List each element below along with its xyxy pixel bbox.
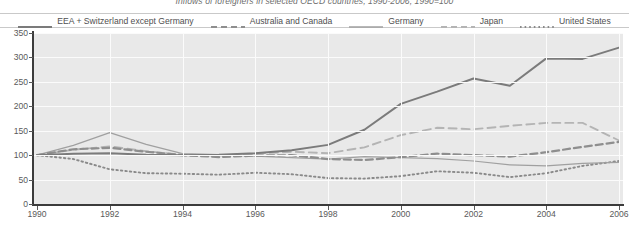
x-tick-label: 1990 <box>27 209 46 219</box>
y-tick-label: 250 <box>0 77 28 87</box>
y-tick-label: 100 <box>0 150 28 160</box>
x-tick-label: 1992 <box>100 209 119 219</box>
legend-label: Australia and Canada <box>250 16 333 26</box>
x-gridline <box>183 33 184 204</box>
legend-swatch-icon <box>520 17 554 25</box>
x-gridline <box>546 33 547 204</box>
legend-label: Germany <box>388 16 423 26</box>
plot-canvas <box>33 33 623 204</box>
y-tick-mark <box>29 155 33 156</box>
x-tick-label: 1996 <box>246 209 265 219</box>
x-gridline <box>619 33 620 204</box>
chart-title: Inflows of foreigners in selected OECD c… <box>0 0 629 6</box>
y-tick-mark <box>29 82 33 83</box>
legend-item-germany[interactable]: Germany <box>349 16 423 26</box>
legend-item-united-states[interactable]: United States <box>520 16 611 26</box>
x-tick-label: 1998 <box>318 209 337 219</box>
x-gridline <box>474 33 475 204</box>
x-tick-mark <box>37 206 38 210</box>
legend-swatch-icon <box>18 17 52 25</box>
x-tick-label: 2004 <box>537 209 556 219</box>
legend-item-australia-and-canada[interactable]: Australia and Canada <box>211 16 333 26</box>
x-tick-mark <box>328 206 329 210</box>
x-tick-mark <box>546 206 547 210</box>
y-tick-mark <box>29 106 33 107</box>
x-tick-mark <box>474 206 475 210</box>
chart-legend: EEA + Switzerland except GermanyAustrali… <box>0 13 629 28</box>
y-tick-label: 50 <box>0 175 28 185</box>
y-tick-mark <box>29 131 33 132</box>
x-gridline <box>328 33 329 204</box>
x-tick-mark <box>619 206 620 210</box>
x-gridline <box>401 33 402 204</box>
x-tick-mark <box>183 206 184 210</box>
plot-area: 050100150200250300350 199019921994199619… <box>0 28 629 242</box>
x-tick-label: 1994 <box>173 209 192 219</box>
legend-label: Japan <box>480 16 503 26</box>
y-tick-mark <box>29 180 33 181</box>
x-tick-label: 2002 <box>464 209 483 219</box>
y-tick-mark <box>29 57 33 58</box>
x-tick-label: 2000 <box>391 209 410 219</box>
chart-root: Inflows of foreigners in selected OECD c… <box>0 0 629 242</box>
legend-label: EEA + Switzerland except Germany <box>57 16 193 26</box>
y-tick-mark <box>29 204 33 205</box>
x-gridline <box>110 33 111 204</box>
x-tick-label: 2006 <box>609 209 628 219</box>
legend-swatch-icon <box>349 17 383 25</box>
legend-swatch-icon <box>211 17 245 25</box>
legend-swatch-icon <box>441 17 475 25</box>
y-tick-label: 350 <box>0 28 28 38</box>
x-tick-mark <box>110 206 111 210</box>
legend-item-eea-switzerland-except-germany[interactable]: EEA + Switzerland except Germany <box>18 16 193 26</box>
x-tick-mark <box>255 206 256 210</box>
legend-label: United States <box>559 16 611 26</box>
legend-item-japan[interactable]: Japan <box>441 16 503 26</box>
y-tick-mark <box>29 33 33 34</box>
y-tick-label: 150 <box>0 126 28 136</box>
x-gridline <box>255 33 256 204</box>
y-tick-label: 300 <box>0 52 28 62</box>
y-tick-label: 0 <box>0 199 28 209</box>
y-tick-label: 200 <box>0 101 28 111</box>
x-tick-mark <box>401 206 402 210</box>
